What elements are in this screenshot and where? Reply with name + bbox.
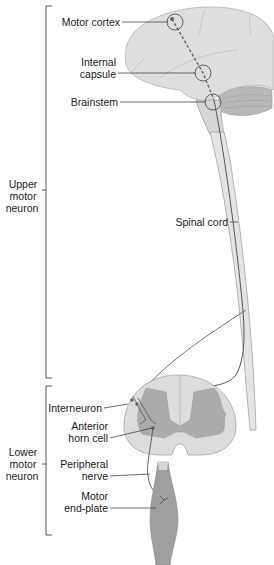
label-internal-capsule-line1: Internal — [70, 56, 116, 68]
label-upper-motor-neuron-3: neuron — [2, 202, 42, 214]
upper-motor-neuron-axon — [140, 100, 244, 400]
label-motor-end-plate-1: Motor — [50, 490, 108, 502]
label-lower-motor-neuron-2: motor — [4, 458, 42, 470]
label-upper-motor-neuron-1: Upper — [4, 178, 42, 190]
label-anterior-horn-2: horn cell — [56, 432, 108, 444]
label-anterior-horn-1: Anterior — [56, 420, 108, 432]
label-spinal-cord: Spinal cord — [166, 216, 228, 228]
label-interneuron: Interneuron — [44, 402, 102, 414]
label-lower-motor-neuron-3: neuron — [2, 470, 42, 482]
label-peripheral-nerve-2: nerve — [50, 470, 108, 482]
upper-motor-neuron-bracket — [42, 6, 52, 378]
label-motor-cortex: Motor cortex — [58, 16, 120, 28]
label-brainstem: Brainstem — [66, 96, 118, 108]
muscle-shape — [150, 462, 178, 565]
label-lower-motor-neuron-1: Lower — [4, 446, 42, 458]
label-upper-motor-neuron-2: motor — [4, 190, 42, 202]
label-motor-end-plate-2: end-plate — [50, 502, 108, 514]
label-internal-capsule-line2: capsule — [70, 68, 116, 80]
label-peripheral-nerve-1: Peripheral — [50, 458, 108, 470]
